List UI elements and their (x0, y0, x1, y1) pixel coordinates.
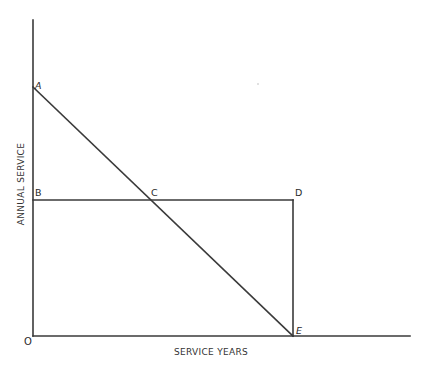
y-axis-label: ANNUAL SERVICE (16, 143, 26, 225)
line-a-to-e (33, 87, 293, 336)
point-c-label: C (151, 187, 158, 198)
x-axis-label: SERVICE YEARS (174, 347, 248, 357)
annual-service-diagram: A B C D E O SERVICE YEARS ANNUAL SERVICE (0, 0, 431, 372)
point-e-label: E (296, 325, 302, 336)
point-d-label: D (295, 187, 302, 198)
scan-artifact (257, 83, 259, 85)
origin-label: O (24, 336, 32, 347)
point-a-label: A (34, 80, 42, 91)
point-b-label: B (35, 187, 42, 198)
